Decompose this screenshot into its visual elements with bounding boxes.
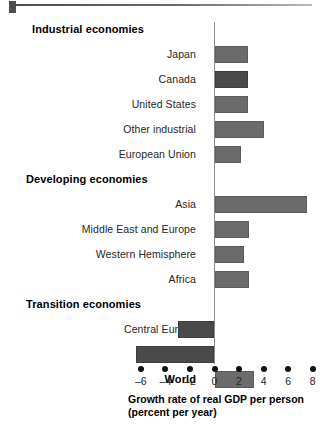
chart-row-label: Japan (0, 42, 196, 67)
chart-row-label: Asia (0, 192, 196, 217)
chart-bar (215, 121, 264, 138)
chart-bar (215, 96, 248, 113)
chart-group-header-row: Industrial economies (0, 17, 328, 42)
chart-row-label: Middle East and Europe (0, 217, 196, 242)
x-axis-tick-dot (236, 366, 242, 372)
header-rule-line (14, 4, 312, 6)
chart-row-label: Industrial economies (0, 17, 196, 42)
x-axis-tick-dot (162, 366, 168, 372)
chart-bar (215, 196, 307, 213)
gdp-growth-bar-chart: Industrial economiesJapanCanadaUnited St… (0, 14, 328, 429)
chart-row: Asia (0, 192, 328, 217)
chart-row-label: Transition economies (0, 292, 196, 317)
x-axis-tick-dot (261, 366, 267, 372)
x-axis-tick-dot (285, 366, 291, 372)
chart-row: Japan (0, 42, 328, 67)
x-axis-caption-line2: (percent per year) (128, 406, 328, 419)
chart-row: Africa (0, 267, 328, 292)
header-rule (0, 0, 328, 14)
header-rule-block (9, 1, 16, 13)
chart-row-label: Other industrial (0, 117, 196, 142)
chart-bar (215, 71, 248, 88)
chart-row: United States (0, 92, 328, 117)
x-axis-tick-dot (212, 366, 218, 372)
x-axis-tick-dot (138, 366, 144, 372)
chart-row: Western Hemisphere (0, 242, 328, 267)
chart-bar (136, 346, 215, 363)
chart-row-label: United States (0, 92, 196, 117)
chart-row-label: Central Europe (0, 317, 196, 342)
x-axis-tick-label: 8 (298, 375, 328, 387)
chart-group-header-row: Developing economies (0, 167, 328, 192)
chart-row: European Union (0, 142, 328, 167)
chart-row-label: European Union (0, 142, 196, 167)
chart-bar (215, 221, 249, 238)
chart-bar (215, 271, 249, 288)
chart-row: Russia (0, 342, 328, 367)
x-axis-tick-dot (310, 366, 316, 372)
chart-row: Other industrial (0, 117, 328, 142)
chart-row: Middle East and Europe (0, 217, 328, 242)
chart-bar (215, 46, 248, 63)
x-axis-tick-dot (187, 366, 193, 372)
x-axis-caption-line1: Growth rate of real GDP per person (128, 393, 328, 406)
x-axis-caption: Growth rate of real GDP per person (perc… (128, 393, 328, 419)
chart-bar (215, 246, 244, 263)
chart-row: Central Europe (0, 317, 328, 342)
chart-group-header-row: Transition economies (0, 292, 328, 317)
chart-bar (178, 321, 215, 338)
chart-row-label: Western Hemisphere (0, 242, 196, 267)
chart-bar (215, 146, 242, 163)
chart-row-label: Canada (0, 67, 196, 92)
chart-row-label: Developing economies (0, 167, 196, 192)
chart-row: Canada (0, 67, 328, 92)
chart-row-label: Africa (0, 267, 196, 292)
x-axis: –6–4–202468 (0, 366, 328, 394)
